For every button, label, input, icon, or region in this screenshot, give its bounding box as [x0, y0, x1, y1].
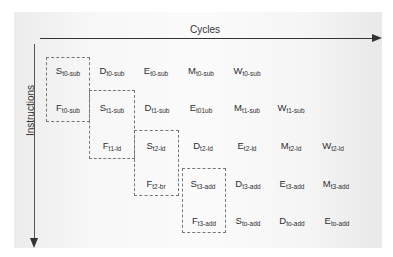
pipeline-cell: Dto-add: [279, 215, 304, 227]
pipeline-cell: Mt3-add: [323, 178, 349, 190]
y-axis-line: [34, 44, 35, 240]
pipeline-cell: Dt2-ld: [193, 140, 213, 152]
pipeline-cell: Et2-ld: [238, 140, 257, 152]
x-axis-line: [40, 38, 374, 39]
pipeline-cell: Wt1-sub: [277, 102, 304, 114]
pipeline-cell: Et01ub: [190, 102, 213, 114]
pipeline-cell: Eto-add: [325, 215, 350, 227]
pipeline-cell: Mt2-ld: [281, 140, 302, 152]
pipeline-cell: Et3-add: [280, 178, 305, 190]
pipeline-cell: Ft1-ld: [103, 140, 121, 152]
x-axis-arrow-icon: [372, 34, 382, 42]
pipeline-cell: Mt0-sub: [188, 65, 214, 77]
pipeline-cell: Ft3-add: [192, 215, 216, 227]
pipeline-cell: St2-ld: [147, 140, 166, 152]
pipeline-cell: Dt0-sub: [100, 65, 125, 77]
pipeline-cell: St1-sub: [100, 102, 124, 114]
pipeline-cell: Ft2-br: [146, 178, 165, 190]
pipeline-cell: Sto-add: [236, 215, 261, 227]
pipeline-cell: St0-sub: [56, 65, 80, 77]
x-axis-label: Cycles: [190, 24, 220, 35]
y-axis-arrow-icon: [30, 238, 38, 248]
pipeline-cell: Dt1-sub: [145, 102, 170, 114]
pipeline-cell: Dt3-add: [235, 178, 260, 190]
pipeline-cell: Wt0-sub: [233, 65, 260, 77]
pipeline-cell: Wt2-ld: [322, 140, 344, 152]
pipeline-cell: Mt1-sub: [234, 102, 260, 114]
pipeline-cell: Et0-sub: [144, 65, 168, 77]
pipeline-cell: Ft0-sub: [56, 102, 80, 114]
pipeline-cell: St3-add: [191, 178, 216, 190]
